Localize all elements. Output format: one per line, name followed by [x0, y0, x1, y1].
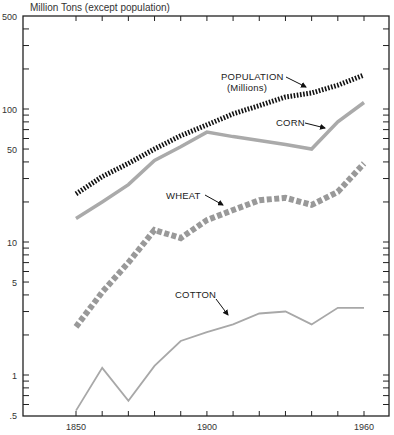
arrow-icon	[216, 299, 228, 315]
population-sublabel: (Millions)	[227, 82, 267, 93]
y-tick-label: 5	[12, 278, 17, 288]
y-axis-label: Million Tons (except population)	[30, 2, 170, 13]
y-tick-label: 10	[7, 238, 17, 248]
annotation-wheat: WHEAT	[166, 190, 223, 205]
annotation-population: POPULATION (Millions)	[221, 71, 306, 93]
population-label: POPULATION	[221, 71, 284, 82]
line-chart: Million Tons (except population) 5001005…	[0, 0, 394, 435]
y-tick-label: 100	[2, 105, 17, 115]
annotation-cotton: COTTON	[175, 289, 228, 315]
cotton-label: COTTON	[175, 289, 216, 300]
wheat-label: WHEAT	[166, 190, 201, 201]
series-wheat	[76, 163, 364, 327]
series-layer	[76, 75, 364, 411]
x-tick-label: 1960	[354, 422, 374, 432]
series-cotton	[76, 308, 364, 411]
corn-label: CORN	[276, 117, 305, 128]
y-tick-label: 50	[7, 145, 17, 155]
y-axis-tick-labels: 500100501051.5	[2, 12, 17, 421]
y-tick-label: 1	[12, 371, 17, 381]
y-tick-label: .5	[9, 411, 17, 421]
arrow-icon	[286, 77, 306, 87]
arrow-icon	[305, 123, 325, 128]
y-tick-label: 500	[2, 12, 17, 22]
x-tick-label: 1850	[66, 422, 86, 432]
arrow-icon	[205, 195, 223, 205]
annotation-corn: CORN	[276, 117, 325, 128]
x-axis-tick-labels: 185019001960	[66, 422, 374, 432]
x-tick-label: 1900	[197, 422, 217, 432]
